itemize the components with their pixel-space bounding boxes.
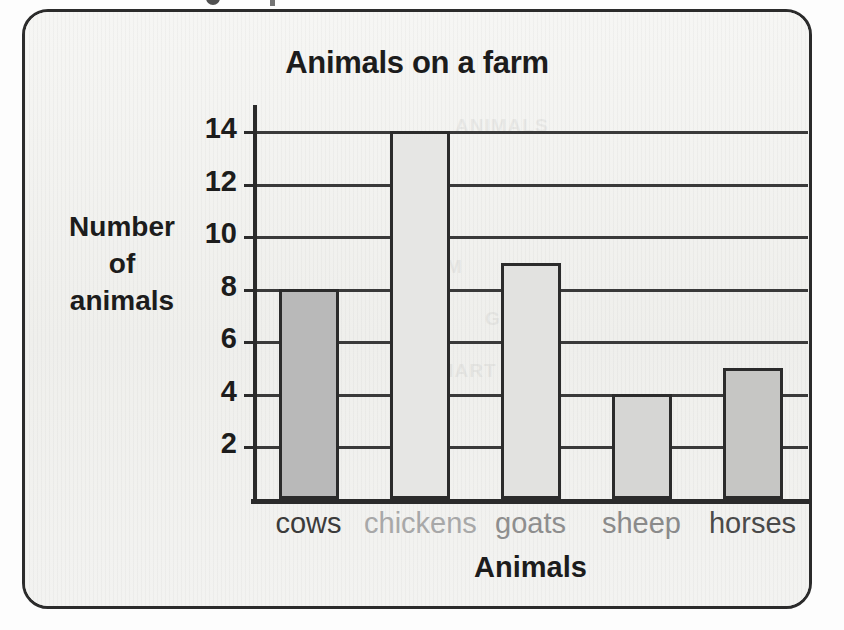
y-axis-title-line: Number xyxy=(37,208,207,245)
y-axis-tick-label: 12 xyxy=(205,165,237,198)
descender-fragment xyxy=(270,0,275,6)
x-axis-line xyxy=(251,499,810,504)
bar-chickens xyxy=(390,131,450,499)
cut-off-heading-sliver xyxy=(0,0,844,9)
category-label-sheep: sheep xyxy=(586,507,697,540)
y-axis-tick-label: 2 xyxy=(221,427,237,460)
y-axis-tick-label: 10 xyxy=(205,217,237,250)
y-axis-title: Number of animals xyxy=(37,208,207,320)
bar-sheep xyxy=(612,394,672,499)
bar-goats xyxy=(501,263,561,499)
y-axis-tick-label: 6 xyxy=(221,322,237,355)
category-label-chickens: chickens xyxy=(364,507,475,540)
descender-fragment xyxy=(206,0,220,5)
y-axis-tick-label: 8 xyxy=(221,270,237,303)
y-axis-tick-label: 14 xyxy=(205,112,237,145)
category-label-goats: goats xyxy=(475,507,586,540)
gridline xyxy=(253,131,808,134)
y-axis-tick-label: 4 xyxy=(221,375,237,408)
bar-horses xyxy=(723,368,783,499)
category-label-horses: horses xyxy=(697,507,808,540)
category-label-cows: cows xyxy=(253,507,364,540)
x-axis-title: Animals xyxy=(253,551,808,584)
gridline xyxy=(253,236,808,239)
y-axis-title-line: animals xyxy=(37,282,207,319)
worksheet-page: ANIMALS FARM GRAPH CHART Animals on a fa… xyxy=(22,9,812,609)
y-axis-line xyxy=(253,105,257,502)
bar-cows xyxy=(279,289,339,499)
y-axis-title-line: of xyxy=(37,245,207,282)
gridline xyxy=(253,184,808,187)
